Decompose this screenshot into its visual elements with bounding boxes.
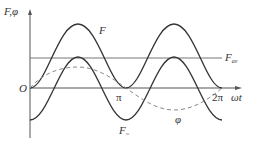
diagram-canvas: F,φ O π 2π ωt F Fav F~ φ — [0, 0, 257, 144]
curve-f-label: F — [99, 25, 106, 36]
origin-label: O — [19, 83, 27, 94]
x-axis-arrow-icon — [235, 86, 242, 90]
origin-label-text: O — [19, 82, 27, 94]
curve-f-label-text: F — [99, 24, 106, 36]
y-axis-arrow-icon — [28, 9, 32, 15]
x-tick-pi: π — [116, 92, 122, 103]
x-axis-label: ωt — [231, 92, 242, 103]
y-axis-label: F,φ — [4, 6, 18, 17]
x-axis — [30, 86, 242, 90]
x-axis-label-text: ωt — [231, 91, 242, 103]
x-tick-2pi: 2π — [212, 92, 223, 103]
f-av-label: Fav — [225, 52, 237, 64]
x-tick-2pi-text: 2π — [212, 91, 223, 103]
curve-f-alt-label-main: F — [119, 124, 126, 136]
curve-f-alt-label-sub: ~ — [126, 131, 129, 137]
curve-phi-label: φ — [175, 114, 181, 125]
curve-f-alternating-label: F~ — [119, 125, 129, 137]
y-axis-label-text: F,φ — [4, 5, 18, 17]
y-axis — [28, 9, 32, 138]
curve-phi-label-text: φ — [175, 113, 181, 125]
f-av-label-main: F — [225, 51, 232, 63]
x-tick-pi-text: π — [116, 91, 122, 103]
f-av-label-sub: av — [232, 58, 238, 64]
